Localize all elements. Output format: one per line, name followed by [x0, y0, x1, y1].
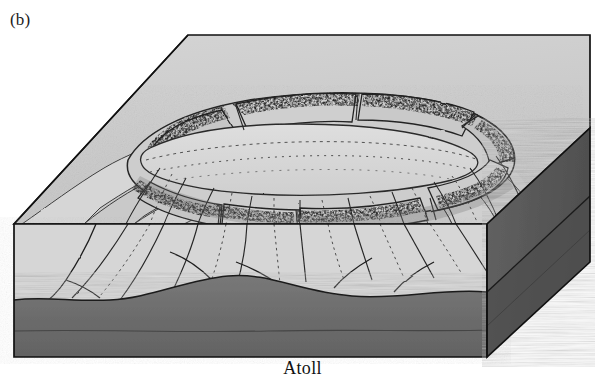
- atoll-block-diagram: [0, 0, 605, 390]
- figure-caption: Atoll: [0, 358, 605, 379]
- front-cut-face: [14, 224, 487, 357]
- figure-root: (b): [0, 0, 605, 390]
